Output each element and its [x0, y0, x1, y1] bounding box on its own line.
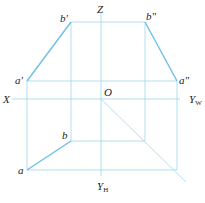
- label-b-double-prime: b": [146, 10, 157, 22]
- label-b-prime: b': [60, 12, 69, 24]
- diagonal-45-line: [101, 99, 186, 182]
- label-z: Z: [97, 3, 104, 15]
- label-a-double-prime: a": [179, 74, 190, 86]
- front-view-segment: [27, 22, 71, 81]
- label-a: a: [18, 164, 24, 176]
- label-b: b: [62, 129, 68, 141]
- label-a-prime: a': [15, 74, 24, 86]
- projection-diagram: Z X O YW YH b' b" a' a" b a: [0, 0, 205, 203]
- label-yw: YW: [189, 93, 202, 107]
- label-yh: YH: [97, 180, 108, 194]
- side-view-segment: [145, 22, 177, 81]
- diagram-svg: Z X O YW YH b' b" a' a" b a: [0, 0, 205, 203]
- label-origin: O: [104, 86, 112, 98]
- label-x: X: [2, 93, 11, 105]
- top-view-segment: [27, 141, 71, 170]
